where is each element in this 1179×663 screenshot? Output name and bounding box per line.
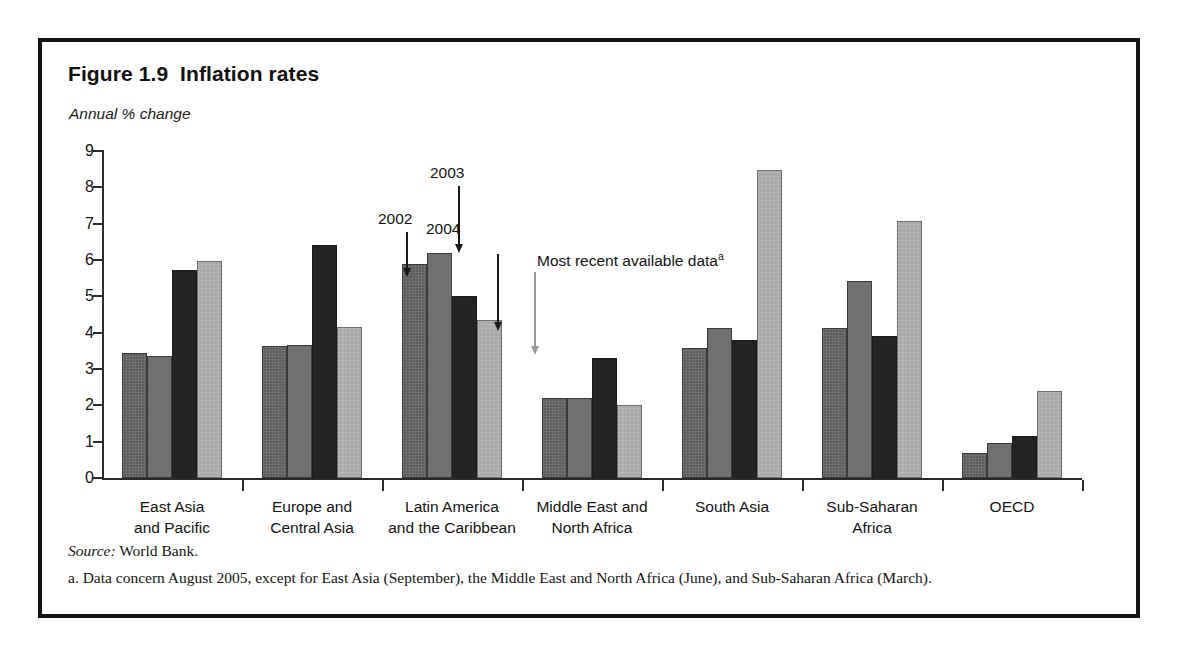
bar-1-2 (312, 245, 337, 478)
y-axis-tick (93, 186, 104, 188)
y-axis-tick-label: 8 (64, 179, 94, 195)
annotation-2004: 2004 (426, 220, 460, 238)
annotation-most-recent-label: Most recent available data (537, 252, 718, 269)
x-axis-separator (522, 480, 524, 491)
bar-2-3 (477, 320, 502, 478)
bar-6-0 (962, 453, 987, 478)
bar-4-2 (732, 340, 757, 478)
x-axis-separator (802, 480, 804, 491)
bar-6-2 (1012, 436, 1037, 478)
y-axis-tick-label: 4 (64, 325, 94, 341)
bar-1-1 (287, 345, 312, 478)
annotation-arrow-2004 (497, 254, 499, 323)
y-axis-tick (93, 368, 104, 370)
y-axis-tick (93, 295, 104, 297)
source-text: World Bank. (116, 542, 198, 559)
y-axis-tick (93, 441, 104, 443)
bar-0-2 (172, 270, 197, 478)
bar-0-1 (147, 356, 172, 478)
bar-4-1 (707, 328, 732, 478)
y-axis-tick-label: 2 (64, 397, 94, 413)
bar-1-3 (337, 327, 362, 479)
bar-3-0 (542, 398, 567, 478)
y-axis-unit-label: Annual % change (69, 105, 191, 123)
annotation-most-recent: Most recent available dataa (537, 250, 724, 270)
y-axis-tick (93, 404, 104, 406)
bar-2-1 (427, 253, 452, 478)
x-axis-category-label: OECD (928, 496, 1096, 517)
bar-3-1 (567, 398, 592, 478)
bar-2-2 (452, 296, 477, 478)
y-axis-tick (93, 332, 104, 334)
bar-5-3 (897, 221, 922, 478)
y-axis-tick-label: 7 (64, 216, 94, 232)
figure-frame: Figure 1.9 Inflation rates Annual % chan… (38, 38, 1140, 618)
bar-6-3 (1037, 391, 1062, 478)
x-axis-category-label-line: North Africa (508, 517, 676, 538)
x-axis-separator (942, 480, 944, 491)
annotation-2002: 2002 (378, 210, 412, 228)
x-axis-category-label-line: Africa (788, 517, 956, 538)
y-axis-tick-label: 1 (64, 434, 94, 450)
y-axis-tick (93, 259, 104, 261)
y-axis-tick (93, 477, 104, 479)
x-axis-separator (1082, 480, 1084, 491)
bar-4-0 (682, 348, 707, 478)
annotation-arrow-most-recent (534, 272, 536, 347)
bar-2-0 (402, 264, 427, 478)
y-axis-tick-label: 9 (64, 143, 94, 159)
y-axis-tick-label: 0 (64, 470, 94, 486)
x-axis-line (102, 478, 1082, 480)
x-axis-separator (242, 480, 244, 491)
bar-5-1 (847, 281, 872, 478)
annotation-footnote-marker: a (718, 250, 724, 262)
bar-6-1 (987, 443, 1012, 478)
chart-plot-area: 0123456789 East Asiaand PacificEurope an… (102, 147, 1082, 478)
page-title: Figure 1.9 Inflation rates (68, 62, 319, 86)
x-axis-separator (662, 480, 664, 491)
y-axis-tick-label: 5 (64, 288, 94, 304)
annotation-2003: 2003 (430, 164, 464, 182)
bar-0-0 (122, 353, 147, 478)
y-axis-tick-label: 3 (64, 361, 94, 377)
bar-5-0 (822, 328, 847, 478)
y-axis-line (102, 151, 104, 478)
bar-3-2 (592, 358, 617, 478)
y-axis-tick (93, 223, 104, 225)
y-axis-tick-label: 6 (64, 252, 94, 268)
source-line: Source: World Bank. (68, 542, 198, 560)
bar-5-2 (872, 336, 897, 478)
x-axis-separator (382, 480, 384, 491)
y-axis-tick (93, 150, 104, 152)
footnote-text: a. Data concern August 2005, except for … (68, 567, 1110, 589)
source-label: Source: (68, 542, 116, 559)
x-axis-category-label-line: OECD (928, 496, 1096, 517)
annotation-arrow-2002 (406, 232, 408, 269)
bar-4-3 (757, 170, 782, 478)
bar-3-3 (617, 405, 642, 478)
bar-1-0 (262, 346, 287, 478)
bar-0-3 (197, 261, 222, 478)
